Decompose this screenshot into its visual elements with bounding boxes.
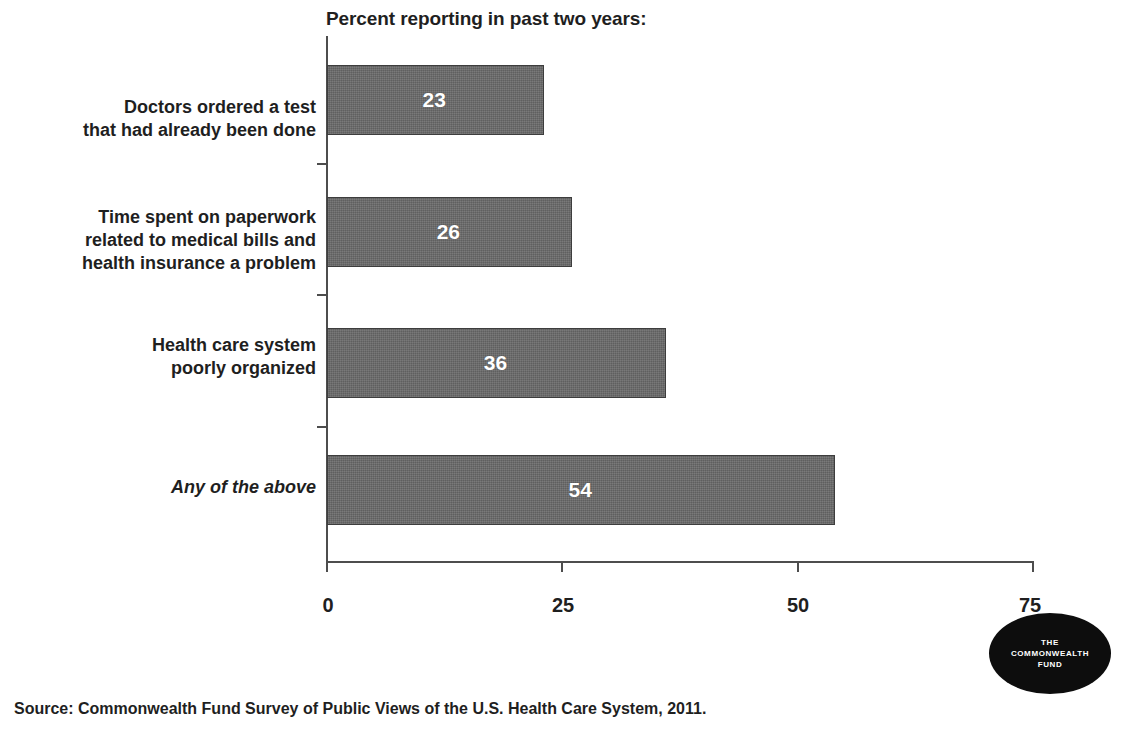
category-label-line: health insurance a problem [16,252,316,275]
x-axis-tick-label-0: 0 [322,594,333,617]
plot-area: 0 25 50 75 23 26 36 54 [326,36,1034,562]
chart-title: Percent reporting in past two years: [326,8,647,30]
category-label-line: Doctors ordered a test [16,96,316,119]
category-label-line: related to medical bills and [16,229,316,252]
category-label-line: Time spent on paperwork [16,206,316,229]
category-axis-labels: Doctors ordered a test that had already … [10,36,316,562]
bar-value-label-1: 26 [437,220,460,244]
x-axis-tick-label-50: 50 [787,594,809,617]
x-axis-line [326,561,1034,563]
x-axis-tick-75 [1032,561,1034,572]
y-axis-tick [317,294,326,296]
category-label-0: Doctors ordered a test that had already … [16,96,316,142]
category-label-line: Any of the above [16,476,316,499]
bar-value-label-3: 54 [568,478,591,502]
category-label-2: Health care system poorly organized [16,334,316,380]
category-label-1: Time spent on paperwork related to medic… [16,206,316,275]
commonwealth-fund-logo: THE COMMONWEALTH FUND [989,613,1111,694]
y-axis-tick [317,163,326,165]
x-axis-tick-25 [561,561,563,572]
logo-line: THE [1041,637,1059,648]
category-label-line: Health care system [16,334,316,357]
category-label-line: that had already been done [16,119,316,142]
logo-line: COMMONWEALTH [1011,648,1089,659]
x-axis-tick-label-25: 25 [552,594,574,617]
bar-value-label-2: 36 [484,351,507,375]
category-label-3: Any of the above [16,476,316,499]
x-axis-tick-50 [797,561,799,572]
logo-line: FUND [1038,659,1063,670]
source-note: Source: Commonwealth Fund Survey of Publ… [14,700,706,718]
category-label-line: poorly organized [16,357,316,380]
bar-value-label-0: 23 [423,88,446,112]
x-axis-tick-0 [326,561,328,572]
y-axis-tick [317,426,326,428]
